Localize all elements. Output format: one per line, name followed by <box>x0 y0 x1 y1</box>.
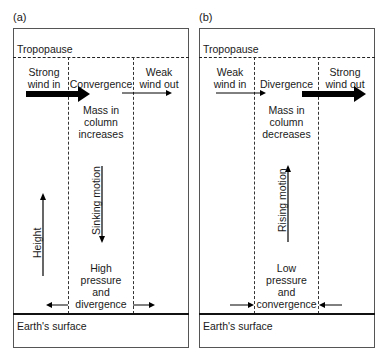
panel-b-surface-convergence-arrows-icon <box>0 0 386 357</box>
panel-b-earth-surface-label: Earth's surface <box>203 320 273 332</box>
panel-b-earth-surface-line <box>199 313 375 315</box>
